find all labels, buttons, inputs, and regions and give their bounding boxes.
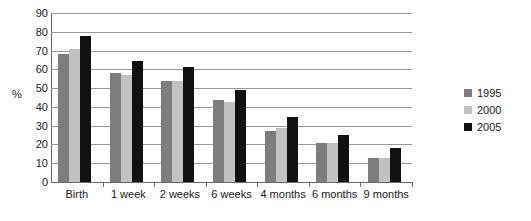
bar xyxy=(276,128,287,182)
bar xyxy=(224,102,235,182)
y-axis-tick-label: 70 xyxy=(26,45,48,56)
x-axis-category-label: 2 weeks xyxy=(160,188,200,201)
plot-area xyxy=(51,13,412,182)
x-axis-tick-mark xyxy=(103,183,104,187)
bar xyxy=(235,90,246,182)
bar xyxy=(183,67,194,182)
legend-label: 2005 xyxy=(477,122,501,133)
y-axis-tick-label: 40 xyxy=(26,101,48,112)
bar xyxy=(338,135,349,182)
legend-swatch-icon xyxy=(464,106,472,114)
bar-group xyxy=(265,13,298,182)
bar xyxy=(368,158,379,182)
y-axis-tick-label: 10 xyxy=(26,158,48,169)
bar xyxy=(132,61,143,182)
bar xyxy=(161,81,172,182)
x-axis-tick-mark xyxy=(412,183,413,187)
bar xyxy=(172,81,183,182)
bar xyxy=(121,75,132,182)
x-axis-category-label: 9 months xyxy=(364,188,409,201)
legend-label: 2000 xyxy=(477,105,501,116)
bar xyxy=(287,117,298,182)
bar xyxy=(265,131,276,182)
bar-group xyxy=(110,13,143,182)
legend-swatch-icon xyxy=(464,123,472,131)
x-axis-tick-mark xyxy=(309,183,310,187)
x-axis-category-label: 4 months xyxy=(260,188,305,201)
y-axis-tick-labels: 0102030405060708090 xyxy=(24,0,48,221)
x-axis-tick-mark xyxy=(154,183,155,187)
x-axis-category-label: 1 week xyxy=(111,188,146,201)
y-axis-unit-label: % xyxy=(12,88,22,100)
legend-swatch-icon xyxy=(464,89,472,97)
bar xyxy=(80,36,91,182)
y-axis-tick-label: 90 xyxy=(26,8,48,19)
x-axis-category-label: 6 months xyxy=(312,188,357,201)
bar xyxy=(379,158,390,182)
bar xyxy=(110,73,121,182)
bar-group xyxy=(368,13,401,182)
bar-group xyxy=(58,13,91,182)
y-axis-tick-label: 50 xyxy=(26,83,48,94)
x-axis-line xyxy=(51,182,413,183)
bar xyxy=(327,143,338,182)
bar xyxy=(213,100,224,182)
bar-group xyxy=(161,13,194,182)
x-axis-tick-mark xyxy=(360,183,361,187)
y-axis-tick-label: 60 xyxy=(26,64,48,75)
y-axis-tick-label: 80 xyxy=(26,26,48,37)
x-axis-category-labels: Birth1 week2 weeks6 weeks4 months6 month… xyxy=(51,188,431,208)
bar-group xyxy=(316,13,349,182)
y-axis-tick-label: 30 xyxy=(26,120,48,131)
chart-legend: 199520002005 xyxy=(464,85,526,136)
bar xyxy=(316,143,327,182)
legend-label: 1995 xyxy=(477,88,501,99)
x-axis-category-label: 6 weeks xyxy=(211,188,251,201)
y-axis-tick-label: 20 xyxy=(26,139,48,150)
x-axis-tick-mark xyxy=(206,183,207,187)
legend-item: 2005 xyxy=(464,119,526,135)
bar-chart: % 0102030405060708090 Birth1 week2 weeks… xyxy=(0,0,531,221)
bar xyxy=(58,54,69,182)
x-axis-tick-mark xyxy=(257,183,258,187)
legend-item: 2000 xyxy=(464,102,526,118)
legend-item: 1995 xyxy=(464,85,526,101)
y-axis-tick-label: 0 xyxy=(26,177,48,188)
bar-group xyxy=(213,13,246,182)
x-axis-category-label: Birth xyxy=(65,188,88,201)
bar xyxy=(390,148,401,182)
bar xyxy=(69,49,80,182)
